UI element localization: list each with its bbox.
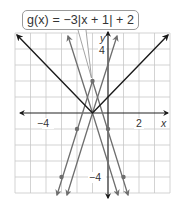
y-tick-neg4: −4 xyxy=(89,171,101,183)
coordinate-graph: −4 2 x y 4 −4 xyxy=(0,0,178,201)
x-tick-neg4: −4 xyxy=(37,117,49,129)
callout-pointer xyxy=(78,29,92,78)
y-axis-label: y xyxy=(99,32,106,44)
y-tick-4: 4 xyxy=(99,44,105,56)
function-label: g(x) = −3|x + 1| + 2 xyxy=(22,10,139,30)
x-axis-label: x xyxy=(160,117,167,129)
x-tick-2: 2 xyxy=(136,117,142,129)
